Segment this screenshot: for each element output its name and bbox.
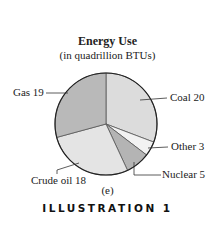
illustration-label: ILLUSTRATION 1 — [0, 202, 215, 214]
label-gas: Gas 19 — [13, 86, 44, 98]
label-other: Other 3 — [171, 140, 204, 152]
figure-caption: (e) — [0, 184, 215, 196]
label-nuclear: Nuclear 5 — [162, 168, 205, 180]
label-coal: Coal 20 — [170, 91, 205, 103]
